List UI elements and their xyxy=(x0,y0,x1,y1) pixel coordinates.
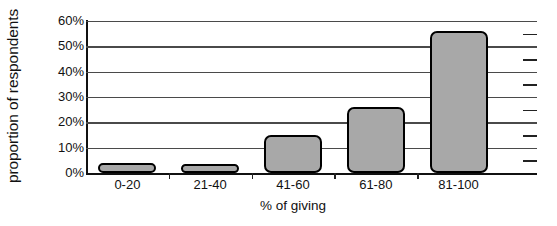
right-axis-tick xyxy=(523,160,537,162)
bar xyxy=(181,164,239,173)
y-axis-tick-label: 20% xyxy=(40,115,84,128)
right-axis-tick xyxy=(523,59,537,61)
y-axis-tick-label: 50% xyxy=(40,39,84,52)
gridline xyxy=(86,21,537,22)
y-axis-tick-labels: 0%10%20%30%40%50%60% xyxy=(40,12,84,178)
y-axis-title: proportion of respondents xyxy=(0,0,26,196)
x-axis-baseline xyxy=(86,173,537,175)
y-axis-tick-label: 30% xyxy=(40,90,84,103)
x-axis-tick-label: 41-60 xyxy=(252,178,335,192)
y-axis-tick-label: 0% xyxy=(40,166,84,179)
bar xyxy=(347,107,405,173)
x-axis-tick-label: 21-40 xyxy=(169,178,252,192)
x-axis-tick-labels: 0-2021-4041-6061-8081-100 xyxy=(86,178,500,196)
bar xyxy=(264,135,322,173)
x-axis-title: % of giving xyxy=(86,198,500,213)
right-axis-tick xyxy=(523,34,537,36)
right-axis-tick xyxy=(523,110,537,112)
right-axis-tick xyxy=(523,84,537,86)
x-axis-tick-label: 81-100 xyxy=(417,178,500,192)
right-axis-tick xyxy=(523,135,537,137)
x-axis-tick-label: 61-80 xyxy=(334,178,417,192)
y-axis-tick-label: 60% xyxy=(40,14,84,27)
bar xyxy=(430,31,488,173)
y-axis-tick-label: 40% xyxy=(40,65,84,78)
plot-area xyxy=(86,21,500,173)
y-axis-tick-label: 10% xyxy=(40,141,84,154)
x-axis-tick-label: 0-20 xyxy=(86,178,169,192)
bar xyxy=(98,163,156,173)
bar-chart-figure: proportion of respondents 0%10%20%30%40%… xyxy=(0,0,557,226)
